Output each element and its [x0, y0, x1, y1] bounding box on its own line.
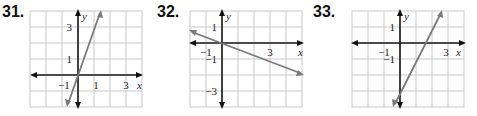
x-tick-label: 3: [443, 46, 449, 58]
y-axis-down-arrow-icon: [397, 102, 403, 109]
y-axis-label: y: [403, 10, 409, 22]
y-axis-up-arrow-icon: [397, 9, 403, 16]
graph-33: −1 3 x 1 −1 y: [0, 0, 477, 116]
x-axis-label: x: [455, 46, 461, 58]
y-tick-label: −1: [383, 53, 395, 65]
grid: [352, 11, 464, 107]
y-tick-label: 1: [390, 21, 396, 33]
